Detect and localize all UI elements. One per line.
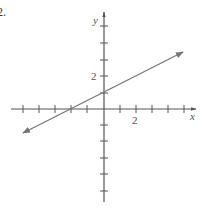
y-tick-label-2: 2 [91, 70, 97, 82]
plotted-line [23, 52, 183, 133]
x-axis-label: x [189, 110, 195, 122]
x-tick-label-2: 2 [132, 114, 138, 126]
coordinate-graph: y x 2 2 [0, 0, 204, 213]
y-axis-label: y [92, 14, 98, 26]
